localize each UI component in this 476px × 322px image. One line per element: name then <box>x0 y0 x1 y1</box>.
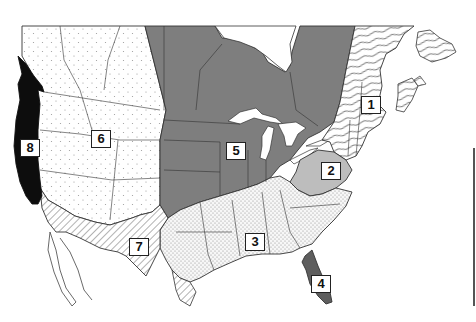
mexico-coast <box>60 238 92 300</box>
baja-california <box>48 232 76 306</box>
page-edge-line <box>473 148 475 306</box>
region-label-6: 6 <box>91 130 111 148</box>
map-canvas <box>0 0 476 322</box>
region-label-8: 8 <box>20 139 40 157</box>
region-label-4: 4 <box>311 275 331 293</box>
region-1-newfoundland <box>416 30 456 62</box>
region-label-5: 5 <box>226 142 246 160</box>
region-label-2: 2 <box>321 162 341 180</box>
region-1-nova-scotia <box>396 78 418 112</box>
map: 1 2 3 4 5 6 7 8 <box>0 0 476 322</box>
region-label-1: 1 <box>361 96 381 114</box>
region-label-3: 3 <box>245 233 265 251</box>
region-label-7: 7 <box>129 238 149 256</box>
